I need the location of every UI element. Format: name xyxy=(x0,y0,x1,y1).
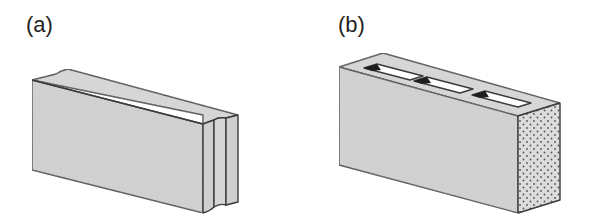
block-a-end-face xyxy=(203,120,214,213)
block-b-end-face xyxy=(518,103,560,213)
blocks-illustration xyxy=(0,0,592,223)
solid-block-a xyxy=(32,69,238,213)
hollow-block-b xyxy=(339,53,560,213)
